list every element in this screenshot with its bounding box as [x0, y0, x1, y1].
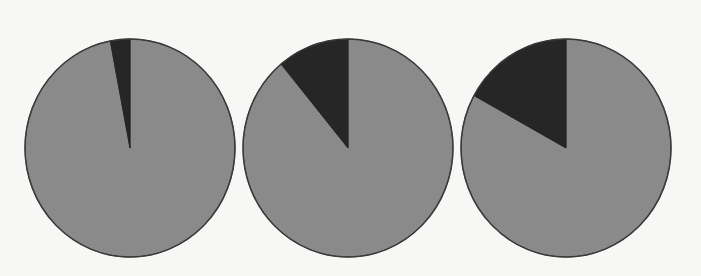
pie-charts-canvas [0, 0, 701, 276]
pie-chart-panel [0, 0, 701, 276]
pie-chart-1 [25, 39, 235, 257]
pie-chart-2 [243, 39, 453, 257]
pie-chart-3 [461, 39, 671, 257]
